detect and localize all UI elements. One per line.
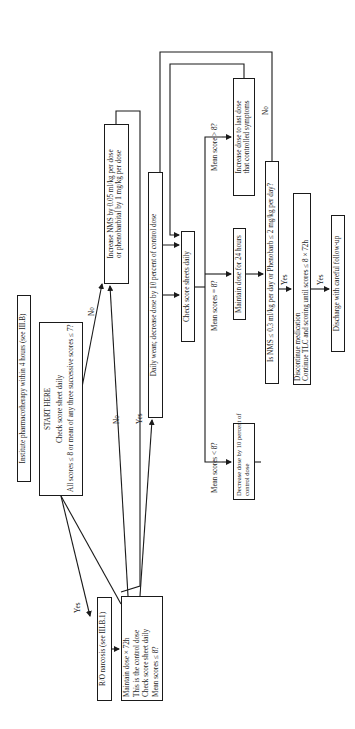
increase-nms-box: Increase NMS by 0.05 ml/kg per dose or p…: [104, 124, 129, 284]
maintain-24h-text: Maintain dose for 24 hours: [235, 235, 243, 313]
decrease-line-2: control dose: [243, 427, 251, 496]
discontinue-medication-box: Discontinue medication Continue TLC and …: [293, 193, 311, 385]
is-nms-text: Is NMS ≤ 0.3 ml/kg per day or Phenobarb …: [267, 183, 275, 362]
institute-pharmacotherapy-box: Institute pharmacotherapy within 4 hours…: [17, 295, 31, 482]
start-here-box: START HERE Check score sheet daily All s…: [39, 322, 83, 496]
discontinue-line-2: Continue TLC and scoring until scores ≤ …: [303, 197, 311, 381]
maintain-24h-box: Maintain dose for 24 hours: [233, 228, 246, 320]
maintain-question: Mean scores ≤ 8?: [152, 600, 162, 697]
maintain-control-dose-box: Maintain dose × 72h This is the control …: [121, 596, 163, 701]
maintain-line-2: This is the control dose: [133, 600, 143, 697]
start-question: All scores ≤ 8 or mean of any three succ…: [66, 326, 78, 492]
increase-nms-line-1: Increase NMS by 0.05 ml/kg per dose: [107, 128, 115, 280]
check-sheets-text: Check score sheets daily: [183, 251, 191, 322]
discharge-box: Discharge with careful follow-up: [331, 215, 345, 352]
discharge-text: Discharge with careful follow-up: [333, 236, 341, 331]
ro-narcosis-text: R/O narcosis (see III.B.1): [99, 612, 107, 686]
daily-wean-box: Daily wean; decrease dose by 10 percent …: [148, 172, 163, 418]
check-score-sheets-box: Check score sheets daily: [181, 231, 195, 342]
start-instruction: Check score sheet daily: [55, 326, 67, 492]
flowchart-canvas: Institute pharmacotherapy within 4 hours…: [0, 0, 355, 729]
daily-wean-text: Daily wean; decrease dose by 10 percent …: [150, 214, 158, 376]
label-maintain-no: No: [113, 415, 122, 424]
label-mean-lt-8: Mean scores < 8?: [211, 442, 220, 493]
label-mean-gt-8: Mean score > 8?: [211, 123, 220, 171]
label-is-nms-no: No: [262, 106, 271, 115]
label-start-no: No: [88, 307, 97, 316]
maintain-line-3: Check score sheet daily: [142, 600, 152, 697]
institute-text: Institute pharmacotherapy within 4 hours…: [19, 314, 27, 464]
decrease-dose-box: Decrease dose by 10 percent of control d…: [233, 423, 255, 500]
increase-last-line-2: that controlled symptoms: [243, 82, 251, 192]
start-heading: START HERE: [43, 326, 55, 492]
label-discontinue-yes: Yes: [317, 275, 326, 285]
increase-nms-line-2: or phenobarbital by 1 mg/kg per dose: [115, 128, 123, 280]
decrease-line-1: Decrease dose by 10 percent of: [235, 427, 243, 496]
increase-last-dose-box: Increase dose to last dose that controll…: [233, 78, 255, 196]
label-is-nms-yes: Yes: [281, 275, 290, 285]
edge-maintain-no: [110, 286, 128, 596]
is-nms-threshold-box: Is NMS ≤ 0.3 ml/kg per day or Phenobarb …: [265, 161, 279, 384]
increase-last-line-1: Increase dose to last dose: [235, 82, 243, 192]
ro-narcosis-box: R/O narcosis (see III.B.1): [97, 597, 112, 701]
maintain-line-1: Maintain dose × 72h: [123, 600, 133, 697]
label-start-yes: Yes: [74, 603, 83, 613]
label-mean-eq-8: Mean scores = 8?: [211, 280, 220, 331]
label-maintain-yes: Yes: [136, 414, 145, 424]
edge-start-yes: [61, 496, 90, 616]
edge-maintain-yes: [140, 420, 152, 596]
